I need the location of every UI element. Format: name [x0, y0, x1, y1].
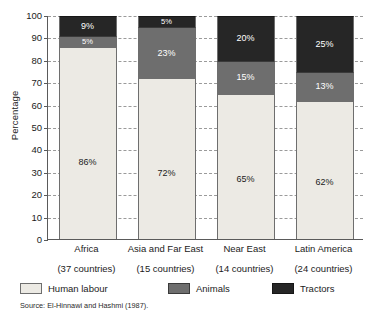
legend-swatch-icon — [20, 283, 42, 294]
category-sublabels: (37 countries)(15 countries)(14 countrie… — [47, 264, 363, 278]
y-tick-label: 20 — [31, 190, 42, 200]
segment-value-label: 23% — [157, 49, 175, 58]
legend-swatch-icon — [272, 283, 294, 294]
legend-item[interactable]: Human labour — [20, 283, 108, 294]
stacked-bar[interactable]: 65%15%20% — [217, 16, 275, 239]
y-tick-label: 70 — [31, 78, 42, 88]
bars-layer: 86%5%9%72%23%5%65%15%20%62%13%25% — [48, 16, 363, 239]
segment-value-label: 65% — [236, 175, 254, 184]
stacked-bar[interactable]: 86%5%9% — [59, 16, 117, 239]
segment-value-label: 20% — [236, 34, 254, 43]
bar-segment-tractors[interactable]: 5% — [138, 16, 196, 27]
figure: Percentage 0102030405060708090100 86%5%9… — [0, 0, 380, 311]
legend-label: Animals — [196, 284, 230, 294]
segment-value-label: 62% — [315, 178, 333, 187]
bar-segment-animals[interactable]: 13% — [296, 72, 354, 101]
y-tick-label: 40 — [31, 146, 42, 156]
x-axis-sublabel: (24 countries) — [294, 264, 352, 274]
legend-item[interactable]: Tractors — [272, 283, 334, 294]
bar-slot: 65%15%20% — [206, 16, 285, 239]
category-labels: AfricaAsia and Far EastNear EastLatin Am… — [47, 244, 363, 258]
segment-value-label: 15% — [236, 73, 254, 82]
segment-value-label: 5% — [82, 38, 93, 46]
x-axis-sublabel: (15 countries) — [136, 264, 194, 274]
legend-label: Tractors — [300, 284, 334, 294]
y-tick-mark — [44, 240, 48, 241]
segment-value-label: 25% — [315, 40, 333, 49]
x-axis-sublabel: (14 countries) — [215, 264, 273, 274]
x-axis-label: Africa — [74, 244, 98, 254]
bar-segment-animals[interactable]: 5% — [59, 36, 117, 47]
y-tick-label: 60 — [31, 101, 42, 111]
bar-segment-tractors[interactable]: 25% — [296, 16, 354, 72]
stacked-bar[interactable]: 72%23%5% — [138, 16, 196, 239]
bar-segment-animals[interactable]: 23% — [138, 27, 196, 78]
bar-slot: 72%23%5% — [127, 16, 206, 239]
source-note: Source: El-Hinnawi and Hashmi (1987). — [20, 302, 148, 309]
segment-value-label: 72% — [157, 169, 175, 178]
legend-item[interactable]: Animals — [168, 283, 230, 294]
bar-segment-animals[interactable]: 15% — [217, 61, 275, 94]
bar-segment-tractors[interactable]: 20% — [217, 16, 275, 61]
segment-value-label: 13% — [315, 82, 333, 91]
y-tick-label: 90 — [31, 34, 42, 44]
segment-value-label: 9% — [81, 22, 94, 31]
segment-value-label: 86% — [78, 158, 96, 167]
bar-segment-human[interactable]: 86% — [59, 47, 117, 239]
bar-segment-human[interactable]: 62% — [296, 101, 354, 239]
segment-value-label: 5% — [161, 18, 172, 26]
y-axis-title: Percentage — [9, 66, 20, 166]
bar-slot: 86%5%9% — [48, 16, 127, 239]
y-tick-label: 30 — [31, 168, 42, 178]
chart-legend: Human labourAnimalsTractors — [20, 283, 364, 299]
bar-segment-human[interactable]: 72% — [138, 78, 196, 239]
y-tick-label: 80 — [31, 56, 42, 66]
bar-segment-human[interactable]: 65% — [217, 94, 275, 239]
stacked-bar[interactable]: 62%13%25% — [296, 16, 354, 239]
y-tick-label: 100 — [26, 11, 42, 21]
legend-label: Human labour — [48, 284, 108, 294]
bar-segment-tractors[interactable]: 9% — [59, 16, 117, 36]
y-tick-label: 50 — [31, 123, 42, 133]
x-axis-sublabel: (37 countries) — [57, 264, 115, 274]
plot-area: 0102030405060708090100 86%5%9%72%23%5%65… — [47, 16, 363, 240]
bar-slot: 62%13%25% — [285, 16, 364, 239]
y-tick-label: 10 — [31, 213, 42, 223]
x-axis-label: Latin America — [295, 244, 353, 254]
x-axis-label: Near East — [223, 244, 265, 254]
legend-swatch-icon — [168, 283, 190, 294]
x-axis-label: Asia and Far East — [128, 244, 204, 254]
y-tick-label: 0 — [37, 235, 42, 245]
